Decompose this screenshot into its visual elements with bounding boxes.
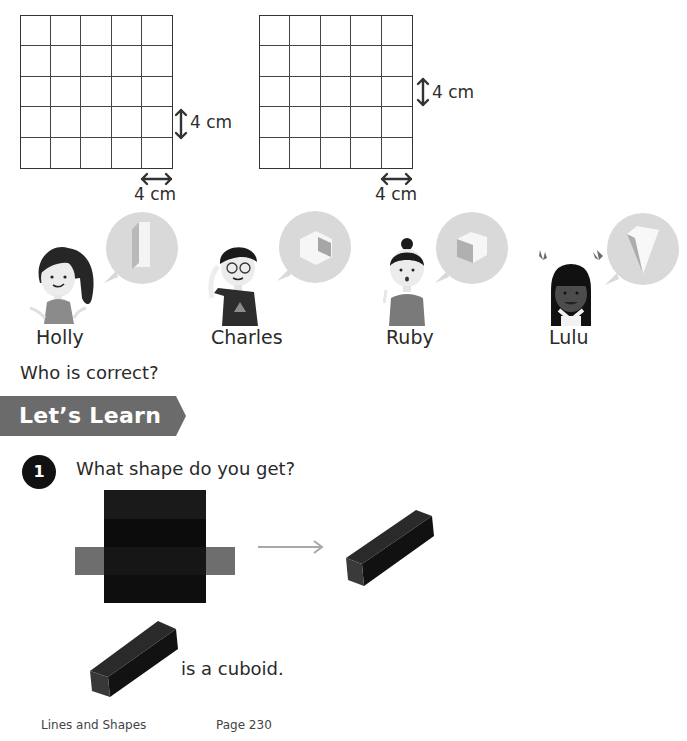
- cuboid-example-image: [88, 615, 180, 697]
- grid-cell: [112, 77, 142, 107]
- grid-cell: [81, 107, 111, 137]
- grid-cell: [112, 16, 142, 46]
- task-number-badge: 1: [22, 455, 56, 489]
- grid-cell: [382, 107, 412, 137]
- grid-cell: [81, 138, 111, 168]
- grid-cell: [21, 107, 51, 137]
- character-ruby: [383, 238, 431, 326]
- bubble-tail: [435, 268, 449, 280]
- grid-cell: [351, 77, 381, 107]
- grid-cell: [290, 138, 320, 168]
- right-arrow-icon: [257, 539, 325, 555]
- grid-cell: [21, 46, 51, 76]
- grid-cell: [290, 46, 320, 76]
- grid-cell: [260, 77, 290, 107]
- grid-cell: [21, 77, 51, 107]
- cuboid-statement: is a cuboid.: [181, 658, 284, 679]
- grid-cell: [112, 138, 142, 168]
- grid-cell: [321, 138, 351, 168]
- grid-cell: [51, 107, 81, 137]
- grid-cell: [81, 46, 111, 76]
- tall-cuboid-icon: [128, 219, 154, 271]
- footer-chapter: Lines and Shapes: [41, 718, 146, 732]
- vertical-dimension-arrow-icon: [174, 108, 188, 140]
- grid-1-horizontal-label: 4 cm: [134, 184, 176, 204]
- grid-cell: [260, 138, 290, 168]
- grid-cell: [142, 46, 172, 76]
- square-grid-1: [20, 15, 173, 169]
- grid-cell: [81, 77, 111, 107]
- grid-cell: [51, 138, 81, 168]
- grid-cell: [51, 46, 81, 76]
- grid-cell: [112, 46, 142, 76]
- question-text: Who is correct?: [20, 362, 159, 383]
- grid-cell: [81, 16, 111, 46]
- cube-hexagon-icon: [298, 229, 334, 267]
- grid-cell: [351, 107, 381, 137]
- footer-page-number: Page 230: [216, 718, 272, 732]
- horizontal-dimension-arrow-icon: [140, 171, 173, 185]
- grid-cell: [290, 16, 320, 46]
- bubble-tail: [104, 268, 118, 280]
- grid-cell: [112, 107, 142, 137]
- character-name-holly: Holly: [36, 326, 84, 348]
- cuboid-result-image: [342, 506, 436, 588]
- grid-cell: [351, 138, 381, 168]
- character-name-ruby: Ruby: [386, 326, 434, 348]
- grid-cell: [142, 77, 172, 107]
- task-prompt: What shape do you get?: [76, 458, 295, 479]
- grid-cell: [351, 16, 381, 46]
- section-title: Let’s Learn: [19, 403, 161, 428]
- grid-2-vertical-label: 4 cm: [432, 82, 474, 102]
- grid-1-vertical-label: 4 cm: [190, 112, 232, 132]
- grid-cell: [321, 46, 351, 76]
- grid-cell: [382, 77, 412, 107]
- grid-cell: [260, 46, 290, 76]
- bubble-tail: [605, 270, 619, 282]
- square-grid-2: [259, 15, 413, 169]
- grid-cell: [21, 138, 51, 168]
- grid-cell: [321, 77, 351, 107]
- grid-cell: [51, 16, 81, 46]
- character-holly: [28, 238, 100, 324]
- character-charles: [206, 238, 270, 326]
- grid-cell: [382, 16, 412, 46]
- grid-cell: [351, 46, 381, 76]
- grid-cell: [321, 16, 351, 46]
- grid-cell: [260, 16, 290, 46]
- grid-cell: [142, 138, 172, 168]
- pyramid-icon: [625, 224, 661, 276]
- character-name-charles: Charles: [211, 326, 283, 348]
- grid-cell: [382, 46, 412, 76]
- grid-cell: [260, 107, 290, 137]
- grid-2-horizontal-label: 4 cm: [375, 184, 417, 204]
- grid-cell: [51, 77, 81, 107]
- cube-icon: [455, 229, 489, 265]
- horizontal-dimension-arrow-icon: [380, 171, 413, 185]
- grid-cell: [321, 107, 351, 137]
- character-lulu: [537, 250, 607, 326]
- grid-cell: [382, 138, 412, 168]
- grid-cell: [290, 77, 320, 107]
- cuboid-net: [75, 490, 235, 603]
- vertical-dimension-arrow-icon: [416, 77, 430, 107]
- grid-cell: [290, 107, 320, 137]
- grid-cell: [21, 16, 51, 46]
- grid-cell: [142, 107, 172, 137]
- bubble-tail: [277, 266, 291, 278]
- character-name-lulu: Lulu: [549, 326, 589, 348]
- grid-cell: [142, 16, 172, 46]
